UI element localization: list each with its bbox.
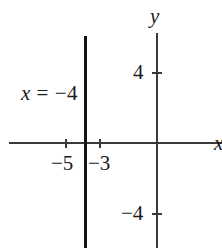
y-axis (156, 33, 158, 248)
x-axis-tick-negative-5 (65, 139, 67, 148)
y-axis-tick-4 (152, 72, 162, 74)
equation-variable: x (21, 81, 31, 105)
x-axis-label: x (214, 133, 222, 154)
y-axis-label: y (150, 6, 159, 27)
y-tick-label-4: 4 (133, 62, 144, 83)
y-axis-tick-negative-4 (152, 213, 162, 215)
y-tick-label-negative-4: −4 (121, 203, 143, 224)
equation-annotation: x = −4 (21, 83, 78, 104)
graph-line-x-equals-negative-4 (84, 36, 87, 248)
coordinate-plane-figure: y x x = −4 −5 −3 4 −4 (0, 0, 222, 248)
x-tick-label-negative-3: −3 (88, 153, 110, 174)
x-axis (9, 142, 222, 144)
equation-remainder: = −4 (31, 81, 78, 105)
x-axis-tick-negative-3 (99, 139, 101, 148)
x-tick-label-negative-5: −5 (51, 153, 73, 174)
